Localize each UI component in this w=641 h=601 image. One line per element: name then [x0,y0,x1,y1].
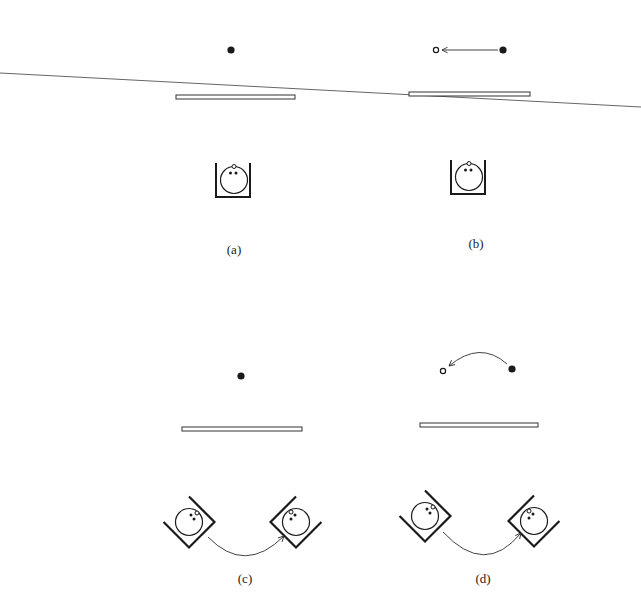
panel-b [409,46,530,194]
observer-box-left [162,495,216,549]
target-point [237,372,244,379]
diagram-figure [0,0,641,601]
mirror-bar [420,423,538,427]
rotation-arrow [208,536,284,556]
panel-a [176,46,295,197]
caption-c: (c) [238,571,252,587]
original-point [499,46,506,53]
mirror-bar [409,92,530,96]
mirror-bar [182,427,302,431]
displacement-arrow [449,352,507,366]
observer-box-left [398,489,452,543]
observer-box [451,160,485,194]
caption-b: (b) [468,236,483,252]
rotation-arrow [443,532,521,555]
caption-d: (d) [475,571,490,587]
displaced-point [440,368,445,373]
panel-c [162,372,323,555]
panel-d [398,352,561,554]
observer-box-right [269,495,323,549]
target-point [227,46,234,53]
observer-box [216,163,250,197]
displaced-point [433,47,438,52]
tilt-line [0,73,641,107]
original-point [508,365,515,372]
caption-a: (a) [227,242,241,258]
mirror-bar [176,95,295,99]
